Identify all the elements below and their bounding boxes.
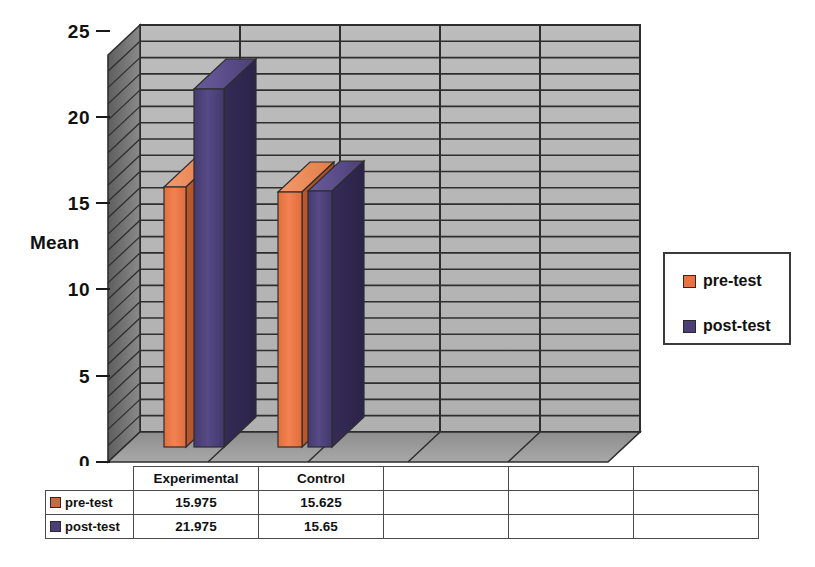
bar-control-post-test bbox=[308, 161, 364, 447]
table-cell-post-test-control: 15.65 bbox=[259, 515, 384, 539]
table-header-control: Control bbox=[259, 467, 384, 491]
table-swatch-post-test-icon bbox=[50, 521, 61, 532]
table-cell-post-test-blank-2 bbox=[509, 515, 634, 539]
table-cell-pre-test-control: 15.625 bbox=[259, 491, 384, 515]
table-rowhead-post-test: post-test bbox=[46, 515, 134, 539]
table-cell-post-test-blank-1 bbox=[384, 515, 509, 539]
chart-legend: pre-test post-test bbox=[663, 252, 791, 345]
table-cell-post-test-blank-3 bbox=[634, 515, 759, 539]
bar-experimental-post-test bbox=[194, 59, 256, 447]
legend-item-pre-test[interactable]: pre-test bbox=[683, 270, 789, 292]
chart-left-wall bbox=[108, 25, 140, 462]
table-header-row: Experimental Control bbox=[46, 467, 759, 491]
legend-label-pre-test: pre-test bbox=[703, 272, 762, 290]
table-header-blank-3 bbox=[634, 467, 759, 491]
table-corner-cell bbox=[46, 467, 134, 491]
table-header-blank-2 bbox=[509, 467, 634, 491]
table-row: post-test 21.975 15.65 bbox=[46, 515, 759, 539]
y-axis-title: Mean bbox=[30, 232, 79, 254]
table-header-experimental: Experimental bbox=[134, 467, 259, 491]
legend-swatch-pre-test-icon bbox=[683, 275, 696, 288]
table-row: pre-test 15.975 15.625 bbox=[46, 491, 759, 515]
y-tick-label-15: 15 bbox=[38, 194, 90, 213]
legend-label-post-test: post-test bbox=[703, 317, 771, 335]
table-cell-pre-test-experimental: 15.975 bbox=[134, 491, 259, 515]
table-rowhead-label-post-test: post-test bbox=[65, 519, 120, 534]
table-cell-pre-test-blank-1 bbox=[384, 491, 509, 515]
table-swatch-pre-test-icon bbox=[50, 497, 61, 508]
y-tick-label-20: 20 bbox=[38, 108, 90, 127]
table-cell-pre-test-blank-2 bbox=[509, 491, 634, 515]
table-cell-post-test-experimental: 21.975 bbox=[134, 515, 259, 539]
table-rowhead-label-pre-test: pre-test bbox=[65, 495, 113, 510]
table-header-blank-1 bbox=[384, 467, 509, 491]
y-tick-label-5: 5 bbox=[38, 367, 90, 386]
chart-data-table: Experimental Control pre-test 15.975 15.… bbox=[45, 466, 759, 539]
legend-swatch-post-test-icon bbox=[683, 320, 696, 333]
table-cell-pre-test-blank-3 bbox=[634, 491, 759, 515]
y-tick-label-25: 25 bbox=[38, 22, 90, 41]
y-tick-label-10: 10 bbox=[38, 280, 90, 299]
table-rowhead-pre-test: pre-test bbox=[46, 491, 134, 515]
legend-item-post-test[interactable]: post-test bbox=[683, 315, 789, 337]
